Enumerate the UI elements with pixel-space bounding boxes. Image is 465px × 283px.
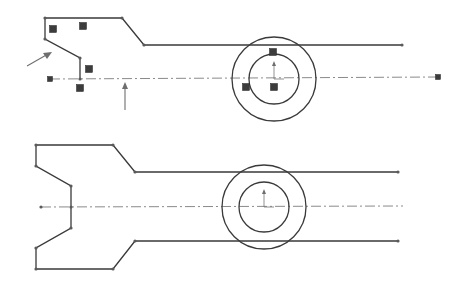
- top-vertices: [43, 16, 403, 80]
- annotation-arrow-icon: [122, 82, 128, 110]
- top-sketch: [27, 16, 441, 121]
- relation-badge-icon[interactable]: [270, 49, 277, 56]
- relation-badges: [50, 23, 278, 92]
- relation-badge-icon[interactable]: [86, 66, 93, 73]
- bottom-sketch: [34, 143, 403, 270]
- endpoint-square-right[interactable]: [436, 75, 441, 80]
- annotation-arrow-icon: [27, 52, 52, 66]
- sketch-canvas[interactable]: [0, 0, 465, 283]
- origin-icon: [262, 189, 274, 207]
- relation-badge-icon[interactable]: [80, 23, 87, 30]
- relation-badge-icon[interactable]: [271, 84, 278, 91]
- relation-badge-icon[interactable]: [50, 26, 57, 33]
- origin-icon: [272, 61, 284, 79]
- relation-badge-icon[interactable]: [243, 84, 250, 91]
- relation-badge-icon[interactable]: [77, 85, 84, 92]
- endpoint-square-left[interactable]: [48, 77, 53, 82]
- top-centerline[interactable]: [50, 77, 438, 79]
- top-upper-edge[interactable]: [45, 18, 402, 45]
